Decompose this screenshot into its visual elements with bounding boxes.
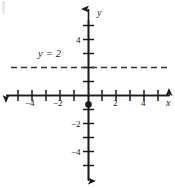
x-tick-label-neg4: −4 (25, 99, 35, 108)
x-tick-label-neg2: −2 (53, 99, 63, 108)
plotted-point-marker (85, 101, 92, 108)
x-tick-label-pos2: 2 (113, 99, 118, 108)
y-axis-name-label: y (97, 8, 101, 18)
x-tick-label-pos4: 4 (141, 99, 146, 108)
x-axis-name-label: x (166, 98, 170, 108)
curve-label-y-equals-2: y = 2 (38, 49, 61, 60)
y-tick-label-neg2: −2 (71, 120, 81, 129)
graph-figure: −4 −2 2 4 4 −2 −4 y x y = 2 (0, 0, 175, 188)
y-tick-label-neg4: −4 (71, 148, 81, 157)
cartesian-plot (0, 0, 175, 188)
y-tick-label-pos4: 4 (76, 36, 81, 45)
